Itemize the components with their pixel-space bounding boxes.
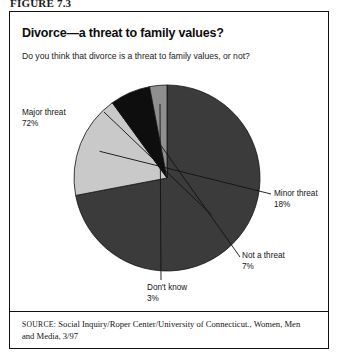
slice-label-minor-threat-pct: 18%: [274, 200, 318, 211]
slice-label-major-threat-name: Major threat: [22, 108, 66, 117]
slice-label-major-threat-pct: 72%: [22, 119, 66, 130]
slice-label-dont-know: Don't know 3%: [147, 283, 187, 304]
pie-chart: Major threat 72% Minor threat 18% Not a …: [9, 11, 329, 306]
slice-label-minor-threat: Minor threat 18%: [274, 189, 318, 210]
slice-label-minor-threat-name: Minor threat: [274, 189, 318, 198]
source-note: SOURCE: Social Inquiry/Roper Center/Univ…: [22, 319, 312, 342]
slice-label-not-a-threat: Not a threat 7%: [242, 251, 285, 272]
source-text: Social Inquiry/Roper Center/University o…: [22, 319, 300, 341]
slice-label-not-a-threat-pct: 7%: [242, 262, 285, 273]
slice-label-dont-know-name: Don't know: [147, 283, 187, 292]
slice-label-major-threat: Major threat 72%: [22, 108, 66, 129]
source-label: SOURCE:: [22, 320, 56, 329]
pie-slices: [74, 85, 260, 271]
figure-number: FIGURE 7.3: [10, 0, 71, 8]
slice-label-not-a-threat-name: Not a threat: [242, 251, 285, 260]
source-divider: [10, 311, 328, 312]
slice-label-dont-know-pct: 3%: [147, 294, 187, 305]
